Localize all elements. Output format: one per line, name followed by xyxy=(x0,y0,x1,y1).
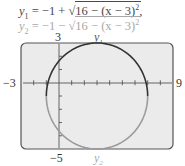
xmin-label: −3 xyxy=(3,77,16,89)
xmax-label: 9 xyxy=(176,77,182,89)
plot-frame xyxy=(21,43,173,149)
y2-curve-label: y2 xyxy=(94,152,103,166)
ymin-label: −5 xyxy=(50,152,63,164)
y1-curve-label: y1 xyxy=(94,31,103,48)
ymax-label: 3 xyxy=(55,31,61,43)
graph-window xyxy=(0,0,185,166)
